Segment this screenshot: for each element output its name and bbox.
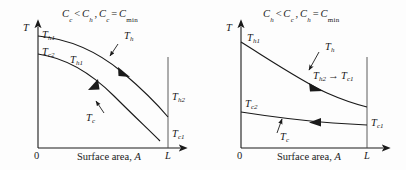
panel-left-x-axis-label-var: A — [134, 151, 140, 162]
panel-left-title-op2: = — [110, 8, 119, 19]
right-arrow-icon: → — [328, 69, 339, 81]
panel-right-x-axis-label: Surface area, A — [277, 151, 341, 162]
panel-right-label-cold-curve: Tc — [280, 132, 289, 143]
panel-left-label-hot-outlet: Th2 — [172, 92, 185, 103]
hot-curve-leader — [110, 44, 118, 56]
panel-right-title-op1: < — [274, 8, 283, 19]
panel-right-label-hot-inlet: Th1 — [247, 33, 260, 44]
panel-right-label-cold-inlet: Tc1 — [371, 118, 384, 129]
cold-fluid-curve — [38, 54, 160, 141]
panel-left-x-axis-label-text: Surface area, — [77, 151, 134, 162]
cold-curve-leader — [96, 101, 104, 113]
panel-left-title-term1: Cc — [62, 8, 73, 19]
panel-left-title: Cc<Ch,Cc=Cmin — [62, 8, 138, 22]
panel-right-approach-left: Th2 — [313, 71, 326, 82]
panel-right-approach-right: Tc1 — [341, 71, 354, 82]
panel-left-title-term3: Cc — [99, 8, 110, 19]
panel-left-x-axis-label: Surface area, A — [77, 151, 141, 162]
panel-left-y-axis-label: T — [23, 23, 29, 34]
panel-left-graphics — [0, 0, 203, 170]
hot-curve-leader — [309, 52, 319, 70]
cold-flow-direction-arrow — [309, 118, 321, 127]
panel-left-x-origin-tick: 0 — [34, 151, 39, 162]
cold-flow-direction-arrow — [88, 79, 100, 90]
panel-right-label-cold-outlet: Tc2 — [245, 99, 258, 110]
panel-left-label-hot-inlet: Th1 — [42, 30, 55, 41]
panel-left-label-cold-outlet: Tc2 — [42, 47, 55, 58]
panel-right-title-op2: = — [311, 8, 320, 19]
panel-left-label-cold-inlet: Tc1 — [172, 129, 185, 140]
panel-right-x-axis-label-var: A — [334, 151, 340, 162]
panel-right-y-axis-label: T — [226, 23, 232, 34]
panel-right-x-end-tick: L — [364, 151, 370, 162]
panel-left-x-end-tick: L — [165, 151, 171, 162]
hot-fluid-curve — [38, 36, 168, 117]
panel-right-title-term3: Ch — [300, 8, 311, 19]
panel-right-approach-annotation: Th2 → Tc1 — [313, 70, 354, 82]
heat-exchanger-temperature-figure: Cc<Ch,Cc=Cmin T Surface area, A 0 L Th1 … — [0, 0, 406, 170]
panel-right-graphics — [203, 0, 406, 170]
panel-left-title-term2: Ch — [82, 8, 93, 19]
hot-flow-direction-arrow — [309, 83, 323, 92]
panel-left-title-term4: Cmin — [119, 8, 138, 19]
panel-right-x-axis-label-text: Surface area, — [277, 151, 334, 162]
panel-left-label-cold-curve: Tc — [86, 113, 95, 124]
cold-fluid-curve — [241, 112, 367, 125]
panel-right-x-origin-tick: 0 — [237, 151, 242, 162]
hot-flow-direction-arrow — [118, 67, 130, 77]
panel-left: Cc<Ch,Cc=Cmin T Surface area, A 0 L Th1 … — [0, 0, 203, 170]
panel-left-label-middle: Th1 — [70, 55, 83, 66]
panel-right-label-hot-curve: Th — [325, 42, 334, 53]
panel-right-title-term4: Cmin — [320, 8, 339, 19]
panel-right-title: Ch<Cc,Ch=Cmin — [263, 8, 340, 22]
panel-left-title-op1: < — [73, 8, 82, 19]
panel-right-title-term2: Cc — [283, 8, 294, 19]
panel-left-label-hot-curve: Th — [124, 31, 133, 42]
panel-right-title-term1: Ch — [263, 8, 274, 19]
panel-right: Ch<Cc,Ch=Cmin T Surface area, A 0 L Th1 … — [203, 0, 406, 170]
